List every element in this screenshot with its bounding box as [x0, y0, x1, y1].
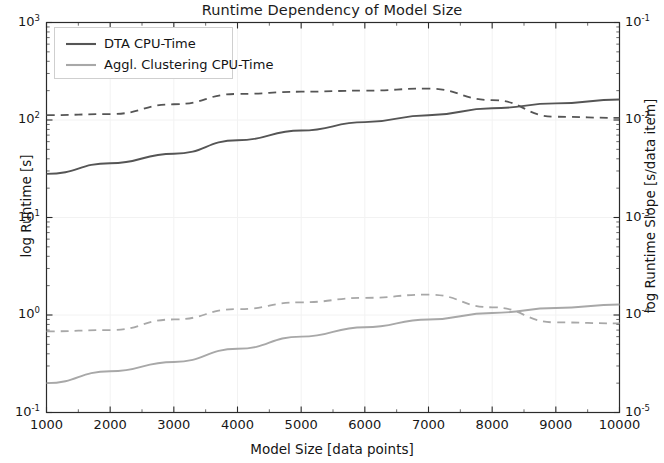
legend-label-0: DTA CPU-Time [104, 36, 196, 51]
series-line-0 [47, 100, 620, 174]
series-line-2 [47, 305, 620, 384]
x-tick-6: 7000 [398, 417, 460, 432]
data-series-group [47, 89, 620, 384]
y-tick-right-1: 10-2 [625, 111, 664, 126]
plot-canvas [0, 0, 664, 463]
y-tick-right-2: 10-3 [625, 209, 664, 224]
x-tick-9: 10000 [589, 417, 651, 432]
x-axis-label: Model Size [data points] [0, 441, 664, 457]
y-tick-right-3: 10-4 [625, 306, 664, 321]
x-tick-7: 8000 [461, 417, 523, 432]
y-tick-left-0: 103 [0, 14, 40, 29]
y-tick-left-2: 101 [0, 209, 40, 224]
x-tick-8: 9000 [525, 417, 587, 432]
y-tick-left-1: 102 [0, 111, 40, 126]
x-tick-4: 5000 [270, 417, 332, 432]
x-tick-2: 3000 [143, 417, 205, 432]
y-tick-left-3: 100 [0, 306, 40, 321]
series-line-1 [47, 89, 620, 118]
gridlines [47, 23, 620, 413]
x-tick-0: 1000 [16, 417, 78, 432]
series-line-3 [47, 295, 620, 332]
x-tick-5: 6000 [334, 417, 396, 432]
y-tick-right-0: 10-1 [625, 14, 664, 29]
legend-label-1: Aggl. Clustering CPU-Time [104, 57, 273, 72]
x-tick-1: 2000 [79, 417, 141, 432]
chart-figure: Runtime Dependency of Model Size Model S… [0, 0, 664, 463]
y-axis-label-left: log Runtime [s] [18, 106, 34, 306]
x-tick-3: 4000 [207, 417, 269, 432]
